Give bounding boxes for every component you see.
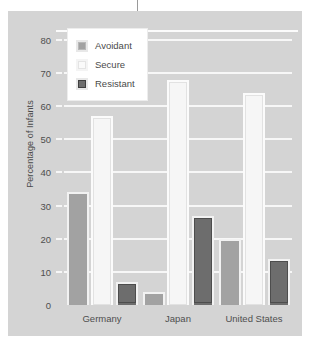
- legend-item-resistant: Resistant: [76, 74, 135, 93]
- bar-united-states-resistant: [268, 259, 290, 305]
- y-tick-mark: [56, 138, 62, 140]
- x-tick-label: United States: [225, 313, 282, 324]
- chart-legend: AvoidantSecureResistant: [68, 29, 147, 100]
- y-tick-mark: [56, 105, 62, 107]
- bar-japan-secure: [167, 80, 189, 305]
- x-tick-label: Japan: [165, 313, 191, 324]
- x-tick-label: Germany: [82, 313, 121, 324]
- y-tick-label: 20: [40, 233, 51, 244]
- y-tick-mark: [56, 271, 62, 273]
- y-tick-mark: [56, 238, 62, 240]
- bar-united-states-avoidant: [219, 239, 241, 305]
- y-tick-label: 0: [46, 300, 51, 311]
- plot-frame: Percentage of Infants 01020304050607080 …: [8, 11, 302, 336]
- y-tick-mark: [56, 39, 62, 41]
- y-tick-label: 40: [40, 167, 51, 178]
- bar-body: [192, 216, 214, 305]
- legend-item-secure: Secure: [76, 55, 135, 74]
- y-tick-label: 80: [40, 34, 51, 45]
- bar-body: [219, 239, 241, 305]
- y-tick-mark: [56, 205, 62, 207]
- bar-body: [143, 292, 165, 305]
- chart-figure: Percentage of Infants 01020304050607080 …: [0, 0, 310, 344]
- y-tick-label: 60: [40, 101, 51, 112]
- bar-united-states-secure: [243, 93, 265, 305]
- legend-item-label: Avoidant: [95, 40, 132, 51]
- bar-body: [91, 116, 113, 305]
- bar-body: [243, 93, 265, 305]
- bar-japan-avoidant: [143, 292, 165, 305]
- resistant-swatch-icon: [76, 78, 88, 90]
- y-tick-label: 70: [40, 68, 51, 79]
- y-tick-label: 30: [40, 200, 51, 211]
- legend-item-label: Resistant: [95, 78, 135, 89]
- bar-body: [116, 282, 138, 305]
- bar-germany-avoidant: [67, 192, 89, 305]
- bar-body: [167, 80, 189, 305]
- top-rule-artifact: [137, 0, 138, 11]
- y-tick-label: 10: [40, 266, 51, 277]
- legend-item-avoidant: Avoidant: [76, 36, 135, 55]
- y-tick-mark: [56, 171, 62, 173]
- bar-body: [67, 192, 89, 305]
- bar-germany-secure: [91, 116, 113, 305]
- bar-body: [268, 259, 290, 305]
- avoidant-swatch-icon: [76, 40, 88, 52]
- y-tick-label: 50: [40, 134, 51, 145]
- secure-swatch-icon: [76, 59, 88, 71]
- legend-item-label: Secure: [95, 59, 125, 70]
- y-axis-label: Percentage of Infants: [25, 74, 35, 214]
- bar-japan-resistant: [192, 216, 214, 305]
- bar-germany-resistant: [116, 282, 138, 305]
- y-tick-mark: [56, 72, 62, 74]
